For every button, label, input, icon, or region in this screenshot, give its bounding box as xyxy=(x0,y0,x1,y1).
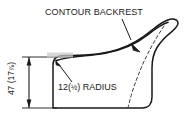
backrest-body-outline xyxy=(53,19,178,108)
technical-drawing-figure: CONTOUR BACKREST 12(½) RADIUS 47 (17⅞) xyxy=(0,0,194,127)
backrest-profile-drawing xyxy=(0,0,194,127)
height-label-fraction: ⅞ xyxy=(7,65,16,71)
height-label-prefix: 47 (17 xyxy=(6,71,16,95)
contour-backrest-leader-line xyxy=(122,19,131,40)
contour-backrest-label: CONTOUR BACKREST xyxy=(45,7,143,18)
radius-label-suffix: ) RADIUS xyxy=(77,82,117,92)
radius-label-prefix: 12( xyxy=(58,82,71,92)
height-dimension-arrow-bottom xyxy=(27,100,32,109)
radius-label: 12(½) RADIUS xyxy=(58,82,117,93)
extension-line-highlight xyxy=(47,53,73,58)
height-label-suffix: ) xyxy=(6,62,16,65)
height-dimension-label: 47 (17⅞) xyxy=(6,55,17,103)
height-dimension-arrow-top xyxy=(27,57,32,66)
